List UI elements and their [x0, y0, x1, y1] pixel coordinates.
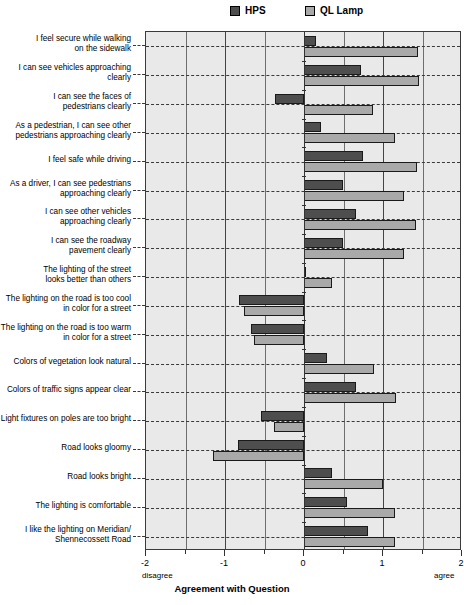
row-guide-line — [146, 104, 460, 105]
bar-hps — [238, 440, 304, 450]
category-leader-line — [133, 132, 145, 133]
x-axis-tick — [224, 550, 225, 556]
x-axis-tick — [422, 550, 423, 554]
category-label-line: on the sidewalk — [0, 44, 131, 54]
category-label-line: pedestrians clearly — [0, 102, 131, 112]
legend-label-ql-lamp: QL Lamp — [320, 5, 363, 17]
bar-ql-lamp — [213, 451, 304, 461]
category-leader-line — [133, 161, 145, 162]
category-label-line: Light fixtures on poles are too bright — [0, 414, 131, 424]
bar-ql-lamp — [304, 537, 395, 547]
category-label: I feel secure while walkingon the sidewa… — [0, 34, 131, 54]
category-label-line: in color for a street — [0, 304, 131, 314]
bar-ql-lamp — [254, 335, 304, 345]
category-label-line: The lighting is comfortable — [0, 501, 131, 511]
category-label: I can see other vehiclesapproaching clea… — [0, 207, 131, 227]
category-label-line: The lighting on the road is too cool — [0, 294, 131, 304]
bar-hps — [304, 238, 343, 248]
zero-line — [304, 32, 305, 549]
bar-ql-lamp — [274, 422, 304, 432]
bar-hps — [275, 94, 304, 104]
x-axis-tick-label: 0 — [300, 558, 305, 569]
row-guide-line — [146, 392, 460, 393]
category-leader-line — [133, 334, 145, 335]
category-leader-line — [133, 276, 145, 277]
x-axis-tick-label: -2 — [141, 558, 149, 569]
category-leader-line — [133, 536, 145, 537]
chart-legend: HPS QL Lamp — [0, 0, 464, 24]
bar-hps — [304, 382, 356, 392]
category-label-line: Colors of traffic signs appear clear — [0, 385, 131, 395]
category-label: Road looks bright — [0, 472, 131, 482]
category-label: Road looks gloomy — [0, 443, 131, 453]
bar-hps — [304, 180, 343, 190]
category-leader-line — [133, 190, 145, 191]
category-label-line: The lighting on the road is too warm — [0, 323, 131, 333]
bar-ql-lamp — [304, 508, 395, 518]
category-label: I feel safe while driving — [0, 155, 131, 165]
category-label-line: I feel safe while driving — [0, 155, 131, 165]
x-axis-tick — [185, 550, 186, 554]
category-label-line: approaching clearly — [0, 189, 131, 199]
bar-ql-lamp — [304, 162, 417, 172]
category-label: I can see the faces ofpedestrians clearl… — [0, 92, 131, 112]
bar-hps — [304, 209, 356, 219]
category-label-line: I can see vehicles approaching — [0, 63, 131, 73]
category-leader-line — [133, 478, 145, 479]
x-axis-tick-label: -1 — [220, 558, 228, 569]
category-label-line: pedestrians approaching clearly — [0, 131, 131, 141]
row-guide-line — [146, 508, 460, 509]
bar-hps — [304, 36, 316, 46]
category-label-line: Road looks gloomy — [0, 443, 131, 453]
bar-ql-lamp — [304, 479, 383, 489]
x-axis-tick — [145, 550, 146, 556]
category-label-line: approaching clearly — [0, 217, 131, 227]
bar-hps — [304, 497, 347, 507]
bar-hps — [304, 353, 327, 363]
category-label-line: I can see the faces of — [0, 92, 131, 102]
bar-chart: HPS QL Lamp I feel secure while walkingo… — [0, 0, 464, 605]
category-label-line: clearly — [0, 73, 131, 83]
bar-ql-lamp — [304, 47, 418, 57]
category-label: As a pedestrian, I can see otherpedestri… — [0, 121, 131, 141]
row-guide-line — [146, 277, 460, 278]
row-guide-line — [146, 133, 460, 134]
category-label-line: The lighting of the street — [0, 265, 131, 275]
x-axis-tick — [303, 550, 304, 556]
legend-swatch-hps — [230, 6, 240, 16]
row-guide-line — [146, 191, 460, 192]
category-label: I can see the roadwaypavement clearly — [0, 236, 131, 256]
category-label: The lighting on the road is too coolin c… — [0, 294, 131, 314]
category-leader-line — [133, 305, 145, 306]
bar-ql-lamp — [304, 249, 404, 259]
category-label: The lighting on the road is too warmin c… — [0, 323, 131, 343]
bar-ql-lamp — [304, 364, 374, 374]
gridline-x-1.5 — [423, 32, 424, 549]
x-axis-tick — [264, 550, 265, 554]
row-guide-line — [146, 364, 460, 365]
x-axis-title: Agreement with Question — [0, 583, 464, 594]
x-axis-tick — [343, 550, 344, 554]
category-label-line: I feel secure while walking — [0, 34, 131, 44]
bar-ql-lamp — [304, 278, 332, 288]
bar-hps — [304, 468, 332, 478]
x-axis-tick-label: 2 — [458, 558, 463, 569]
bar-hps — [304, 65, 361, 75]
bar-ql-lamp — [304, 393, 396, 403]
category-label: As a driver, I can see pedestriansapproa… — [0, 179, 131, 199]
category-label-line: I like the lighting on Meridian/ — [0, 525, 131, 535]
category-label-line: in color for a street — [0, 333, 131, 343]
gridline-x--1 — [225, 32, 226, 549]
category-leader-line — [133, 449, 145, 450]
category-label: Colors of vegetation look natural — [0, 357, 131, 367]
bar-hps — [304, 151, 363, 161]
category-label: Colors of traffic signs appear clear — [0, 385, 131, 395]
category-label-line: As a driver, I can see pedestrians — [0, 179, 131, 189]
category-label: I can see vehicles approachingclearly — [0, 63, 131, 83]
category-leader-line — [133, 74, 145, 75]
category-leader-line — [133, 507, 145, 508]
gridline-x-1 — [383, 32, 384, 549]
category-leader-line — [133, 45, 145, 46]
bar-hps — [251, 324, 304, 334]
bar-hps — [304, 122, 321, 132]
